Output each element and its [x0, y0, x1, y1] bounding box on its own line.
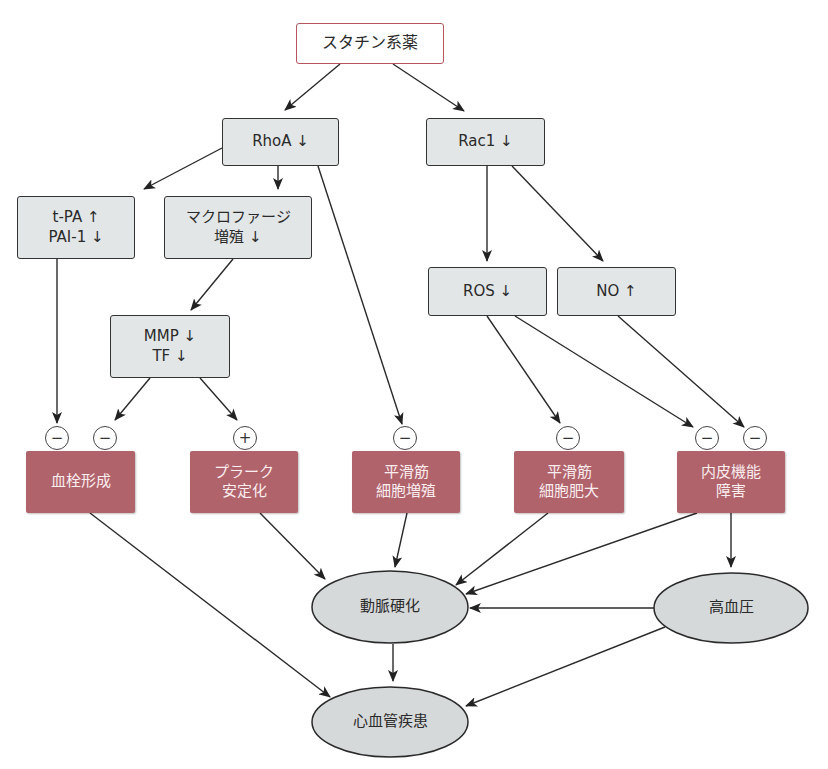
- node-cvd-label: 心血管疾患: [353, 712, 428, 732]
- statin-pathway-diagram: スタチン系薬 RhoA ↓ Rac1 ↓ t-PA ↑ PAI-1 ↓ マクロフ…: [0, 0, 828, 769]
- node-ros: ROS ↓: [428, 267, 547, 316]
- minus-sign-icon: −: [93, 426, 117, 450]
- node-tpa-pai1: t-PA ↑ PAI-1 ↓: [17, 196, 135, 259]
- node-macrophage: マクロファージ 増殖 ↓: [164, 196, 312, 259]
- plus-sign-icon: +: [233, 426, 257, 450]
- node-smc-prolif-line1: 平滑筋: [384, 463, 429, 483]
- edge-mmp-thrombus: [115, 378, 150, 420]
- node-endothelial-line1: 内皮機能: [701, 463, 761, 483]
- node-hypertension-label: 高血圧: [709, 598, 754, 618]
- node-tf-label: TF ↓: [152, 347, 187, 367]
- node-tpa-label: t-PA ↑: [53, 208, 100, 228]
- edge-no-endothelial: [618, 316, 744, 427]
- node-smc-prolif-line2: 細胞増殖: [376, 482, 436, 502]
- edge-layer: [0, 0, 828, 769]
- node-rhoa-label: RhoA ↓: [252, 132, 309, 152]
- node-plaque-line2: 安定化: [222, 482, 267, 502]
- node-thrombus-label: 血栓形成: [51, 472, 111, 492]
- edge-rhoa-smc-prolif: [318, 166, 402, 424]
- minus-sign-icon: −: [556, 426, 580, 450]
- edge-mmp-plaque: [200, 378, 237, 420]
- node-thrombus-formation: 血栓形成: [26, 451, 135, 513]
- node-mmp-tf: MMP ↓ TF ↓: [110, 315, 230, 378]
- minus-sign-icon: −: [743, 426, 767, 450]
- node-plaque-stabilization: プラーク 安定化: [190, 451, 298, 513]
- node-plaque-line1: プラーク: [214, 463, 274, 483]
- edge-statin-rhoa: [285, 64, 340, 110]
- node-atherosclerosis: 動脈硬化: [312, 571, 468, 643]
- edge-thrombus-cvd: [90, 513, 330, 697]
- node-rhoa: RhoA ↓: [222, 118, 339, 166]
- edge-smc-prolif-athero: [395, 513, 407, 567]
- node-macrophage-line1: マクロファージ: [186, 208, 291, 228]
- node-no: NO ↑: [557, 267, 676, 316]
- node-atherosclerosis-label: 動脈硬化: [360, 597, 420, 617]
- node-endothelial-dysfunction: 内皮機能 障害: [677, 451, 785, 513]
- node-macrophage-line2: 増殖 ↓: [214, 228, 261, 248]
- edge-rhoa-tpa: [144, 148, 222, 189]
- node-pai1-label: PAI-1 ↓: [48, 228, 103, 248]
- node-mmp-label: MMP ↓: [144, 327, 196, 347]
- node-statin-label: スタチン系薬: [322, 33, 418, 54]
- node-smc-hypertrophy: 平滑筋 細胞肥大: [514, 451, 624, 513]
- node-hypertension: 高血圧: [654, 573, 808, 643]
- minus-sign-icon: −: [695, 426, 719, 450]
- node-rac1-label: Rac1 ↓: [458, 132, 512, 152]
- node-no-label: NO ↑: [596, 282, 636, 302]
- edge-statin-rac1: [393, 64, 464, 111]
- node-smc-proliferation: 平滑筋 細胞増殖: [352, 451, 460, 513]
- minus-sign-icon: −: [393, 426, 417, 450]
- minus-sign-icon: −: [45, 426, 69, 450]
- node-smc-hyper-line2: 細胞肥大: [539, 482, 599, 502]
- edge-hypertension-cvd: [466, 627, 665, 706]
- node-endothelial-line2: 障害: [716, 482, 746, 502]
- edge-macrophage-mmp: [191, 259, 233, 310]
- edge-rac1-no: [512, 166, 603, 261]
- node-rac1: Rac1 ↓: [426, 118, 545, 166]
- node-smc-hyper-line1: 平滑筋: [547, 463, 592, 483]
- node-statin: スタチン系薬: [296, 23, 444, 64]
- edge-ros-smc-hyper: [487, 316, 560, 423]
- edge-ros-endothelial: [515, 316, 693, 427]
- node-cardiovascular-disease: 心血管疾患: [312, 687, 468, 757]
- edge-plaque-athero: [260, 513, 325, 579]
- edge-smc-hyper-athero: [456, 513, 548, 585]
- node-ros-label: ROS ↓: [463, 282, 512, 302]
